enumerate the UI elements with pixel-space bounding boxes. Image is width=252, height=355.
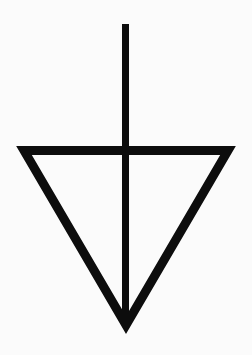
- down-triangle-stem-icon: [0, 0, 252, 355]
- diagram-canvas: downward-triangle-with-vertical-stem: [0, 0, 252, 355]
